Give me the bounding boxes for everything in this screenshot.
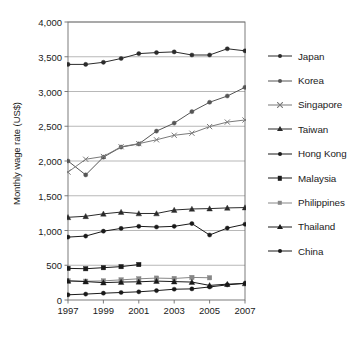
legend-item-japan[interactable]: Japan [268, 44, 363, 68]
data-point-marker [190, 53, 194, 57]
y-tick-label: 4,000 [38, 17, 62, 28]
data-point-marker [225, 283, 229, 287]
legend-item-korea[interactable]: Korea [268, 68, 363, 92]
legend-label: China [298, 246, 323, 257]
data-point-marker [225, 47, 229, 51]
data-point-marker [243, 85, 247, 89]
y-axis-tick-labels: 05001,0001,5002,0002,5003,0003,5004,000 [26, 0, 62, 340]
series-thailand [65, 278, 248, 288]
series-korea [66, 85, 247, 177]
legend-label: Hong Kong [298, 148, 347, 159]
chart-legend: JapanKoreaSingaporeTaiwanHong KongMalays… [268, 44, 363, 264]
y-tick-label: 2,000 [38, 156, 62, 167]
legend-label: Japan [298, 51, 324, 62]
data-point-marker [66, 62, 70, 66]
legend-item-singapore[interactable]: Singapore [268, 93, 363, 117]
legend-label: Thailand [298, 221, 335, 232]
y-axis-title: Monthly wage rate (US$) [11, 64, 22, 244]
data-point-marker [119, 56, 123, 60]
y-tick-label: 1,000 [38, 225, 62, 236]
y-tick-label: 0 [57, 295, 62, 306]
y-tick-label: 3,000 [38, 86, 62, 97]
y-tick-label: 3,500 [38, 51, 62, 62]
legend-item-thailand[interactable]: Thailand [268, 215, 363, 239]
legend-marker-icon [268, 74, 292, 88]
data-point-marker [154, 50, 158, 54]
data-point-marker [154, 129, 158, 133]
x-tick-label: 1999 [93, 305, 114, 316]
data-point-marker [84, 173, 88, 177]
data-point-marker [243, 281, 247, 285]
legend-marker-icon [268, 171, 292, 185]
data-point-marker [154, 289, 158, 293]
legend-item-philippines[interactable]: Philippines [268, 190, 363, 214]
x-tick-label: 2003 [164, 305, 185, 316]
data-point-marker [207, 276, 211, 280]
data-point-marker [84, 62, 88, 66]
data-point-marker [208, 233, 212, 237]
data-point-marker [208, 100, 212, 104]
y-tick-label: 2,500 [38, 121, 62, 132]
data-point-marker [119, 226, 123, 230]
legend-marker-icon [268, 98, 292, 112]
data-point-marker [84, 267, 88, 271]
data-point-marker [172, 50, 176, 54]
data-point-marker [208, 53, 212, 57]
data-point-marker [243, 222, 247, 226]
legend-marker-icon [268, 244, 292, 258]
data-point-marker [190, 110, 194, 114]
data-point-marker [66, 266, 70, 270]
data-point-marker [101, 291, 105, 295]
data-point-marker [172, 287, 176, 291]
data-point-marker [119, 264, 123, 268]
data-point-marker [66, 235, 70, 239]
legend-marker-icon [268, 220, 292, 234]
data-point-marker [154, 225, 158, 229]
data-point-marker [137, 52, 141, 56]
data-point-marker [101, 229, 105, 233]
data-point-marker [208, 285, 212, 289]
legend-item-malaysia[interactable]: Malaysia [268, 166, 363, 190]
data-point-marker [137, 290, 141, 294]
legend-label: Malaysia [298, 173, 336, 184]
legend-label: Philippines [298, 197, 345, 208]
data-point-marker [225, 226, 229, 230]
data-point-marker [119, 290, 123, 294]
x-tick-label: 2005 [199, 305, 220, 316]
legend-label: Taiwan [298, 124, 328, 135]
series-malaysia [66, 262, 141, 271]
data-point-marker [84, 234, 88, 238]
legend-marker-icon [268, 49, 292, 63]
chart-figure: Monthly wage rate (US$) 05001,0001,5002,… [0, 0, 363, 340]
data-point-marker [137, 262, 141, 266]
x-tick-label: 2001 [128, 305, 149, 316]
y-tick-label: 1,500 [38, 190, 62, 201]
data-point-marker [190, 221, 194, 225]
legend-marker-icon [268, 196, 292, 210]
legend-item-hong-kong[interactable]: Hong Kong [268, 142, 363, 166]
legend-label: Korea [298, 75, 324, 86]
series-line [68, 120, 245, 172]
legend-marker-icon [268, 147, 292, 161]
data-point-marker [190, 287, 194, 291]
x-tick-label: 2007 [234, 305, 255, 316]
data-point-marker [66, 293, 70, 297]
data-point-marker [172, 224, 176, 228]
data-point-marker [137, 224, 141, 228]
legend-label: Singapore [298, 99, 342, 110]
series-taiwan [65, 205, 248, 220]
legend-item-taiwan[interactable]: Taiwan [268, 117, 363, 141]
data-point-marker [101, 60, 105, 64]
data-point-marker [84, 292, 88, 296]
data-point-marker [225, 94, 229, 98]
data-point-marker [172, 121, 176, 125]
y-tick-label: 500 [46, 260, 62, 271]
legend-item-china[interactable]: China [268, 239, 363, 263]
data-point-marker [101, 265, 105, 269]
data-point-marker [243, 49, 247, 53]
legend-marker-icon [268, 122, 292, 136]
x-tick-label: 1997 [57, 305, 78, 316]
